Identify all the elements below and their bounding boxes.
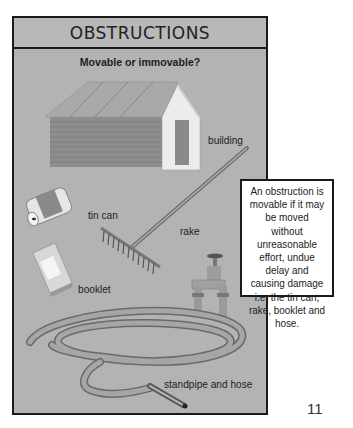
label-building: building (208, 134, 243, 146)
page-number: 11 (307, 400, 323, 417)
building-icon (45, 82, 200, 170)
label-tin-can: tin can (88, 209, 118, 221)
label-rake: rake (180, 225, 200, 237)
booklet-icon (33, 243, 73, 297)
definition-callout: An obstruction is movable if it may be m… (240, 179, 334, 297)
tin-can-icon (25, 186, 74, 227)
hose-icon (30, 311, 242, 409)
label-standpipe-and-hose: standpipe and hose (164, 378, 252, 390)
callout-text: An obstruction is movable if it may be m… (248, 185, 325, 330)
label-booklet: booklet (78, 283, 111, 295)
standpipe-icon (192, 254, 229, 319)
